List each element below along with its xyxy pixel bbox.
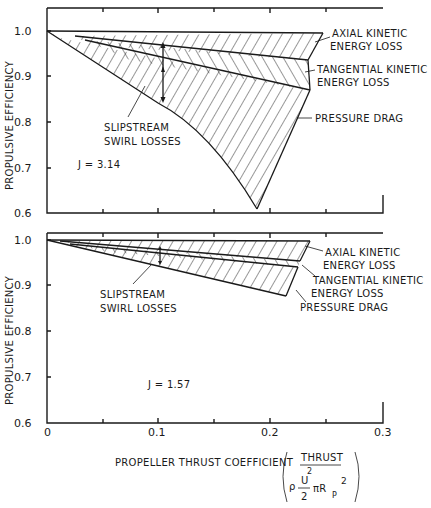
y-tick-0.6: 0.6 — [14, 207, 32, 220]
x-tick-0.1: 0.1 — [148, 426, 166, 439]
swirl-label-bottom-line1: SLIPSTREAM — [100, 289, 165, 300]
figure: 1.0 0.9 0.8 0.7 0.6 SLIPSTREAM SWIRL LOS… — [0, 0, 431, 508]
axial-label-bottom-line2: ENERGY LOSS — [323, 260, 396, 271]
x-axis-title: PROPELLER THRUST COEFFICIENT THRUST ρ U … — [115, 452, 359, 502]
swirl-label-line1: SLIPSTREAM — [104, 122, 169, 133]
x-tick-0: 0 — [44, 426, 51, 439]
y-tick-0.6-bottom: 0.6 — [14, 417, 32, 430]
y-tick-0.8-bottom: 0.8 — [14, 325, 32, 338]
x-axis-label: PROPELLER THRUST COEFFICIENT — [115, 457, 294, 468]
x-tick-0.3: 0.3 — [374, 426, 392, 439]
axial-label-line1: AXIAL KINETIC — [332, 28, 407, 39]
tangential-label-bottom-line2: ENERGY LOSS — [311, 288, 384, 299]
y-tick-0.9: 0.9 — [14, 70, 32, 83]
tangential-label-bottom-line1: TANGENTIAL KINETIC — [312, 275, 424, 286]
y-tick-1.0: 1.0 — [14, 25, 32, 38]
pressure-drag-label: PRESSURE DRAG — [315, 113, 403, 124]
swirl-label-bottom-line2: SWIRL LOSSES — [100, 303, 177, 314]
tangential-label-line2: ENERGY LOSS — [317, 77, 390, 88]
y-tick-0.7-bottom: 0.7 — [14, 371, 32, 384]
y-axis-title-top: PROPULSIVE EFFICIENCY — [4, 60, 15, 190]
svg-text:U: U — [301, 475, 309, 486]
j-value-bottom: J = 1.57 — [147, 379, 190, 390]
svg-text:πR: πR — [313, 483, 327, 494]
tangential-label-line1: TANGENTIAL KINETIC — [316, 64, 428, 75]
svg-text:2: 2 — [301, 491, 308, 502]
j-value-top: J = 3.14 — [77, 159, 120, 170]
swirl-label-line2: SWIRL LOSSES — [104, 136, 181, 147]
svg-text:ρ: ρ — [289, 481, 296, 492]
x-tick-0.2: 0.2 — [261, 426, 279, 439]
svg-text:2: 2 — [307, 467, 312, 476]
y-tick-0.8: 0.8 — [14, 116, 32, 129]
y-tick-0.7: 0.7 — [14, 162, 32, 175]
axial-label-bottom-line1: AXIAL KINETIC — [325, 247, 400, 258]
top-chart: 1.0 0.9 0.8 0.7 0.6 SLIPSTREAM SWIRL LOS… — [14, 8, 428, 220]
y-tick-0.9-bottom: 0.9 — [14, 279, 32, 292]
axial-label-line2: ENERGY LOSS — [330, 41, 403, 52]
pressure-drag-label-bottom: PRESSURE DRAG — [300, 302, 388, 313]
formula-numerator: THRUST — [300, 452, 344, 463]
y-axis-title-bottom: PROPULSIVE EFFICIENCY — [4, 275, 15, 405]
svg-text:2: 2 — [341, 476, 347, 486]
svg-text:P: P — [332, 491, 337, 500]
y-tick-1.0-bottom: 1.0 — [14, 234, 32, 247]
bottom-chart: 1.0 0.9 0.8 0.7 0.6 0 0.1 0.2 0.3 SLIPST… — [14, 233, 424, 439]
